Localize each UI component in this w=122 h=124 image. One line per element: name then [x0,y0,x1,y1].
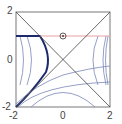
level-curve [31,93,95,108]
y-tick-label: 0 [7,55,13,65]
level-curve [18,82,110,107]
x-tick-label: -2 [9,111,18,121]
highlighted-trajectory [16,36,48,107]
y-tick-label: 2 [7,6,13,16]
circle-marker-dot [62,35,64,37]
x-tick-label: 2 [107,111,113,121]
x-tick-label: 0 [60,111,66,121]
level-curve [106,36,109,85]
level-curve [93,36,98,85]
level-curve [27,36,32,85]
phase-portrait-plot [0,0,122,124]
level-curve [20,36,24,85]
